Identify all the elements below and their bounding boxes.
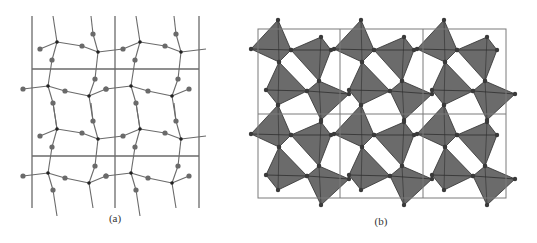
- bond-line: [181, 49, 206, 52]
- oxygen-vertex-dot: [264, 88, 268, 92]
- oxygen-vertex-dot: [319, 120, 323, 124]
- bond-line: [65, 178, 89, 183]
- bond-line: [48, 86, 53, 103]
- framework-node-dot: [96, 137, 100, 141]
- bond-line: [172, 183, 176, 208]
- framework-node-dot: [55, 127, 59, 131]
- framework-node-dot: [129, 171, 133, 175]
- bridging-atom-dot: [79, 43, 84, 48]
- bond-line: [131, 173, 136, 190]
- framework-node-dot: [138, 40, 142, 44]
- oxygen-vertex-dot: [359, 18, 363, 22]
- bridging-atom-dot: [103, 86, 108, 91]
- tetrahedron: [473, 166, 515, 205]
- bond-line: [135, 129, 140, 147]
- tetrahedron: [432, 147, 473, 190]
- bond-line: [23, 86, 48, 89]
- bond-line: [53, 103, 57, 129]
- tetrahedron: [266, 62, 307, 105]
- bond-line: [95, 52, 98, 79]
- bridging-atom-dot: [133, 187, 138, 192]
- oxygen-vertex-dot: [442, 188, 446, 192]
- bridging-atom-dot: [175, 76, 180, 81]
- bridging-atom-dot: [62, 175, 67, 180]
- tetrahedron: [432, 62, 473, 105]
- framework-node-dot: [87, 181, 91, 185]
- bond-line: [48, 173, 53, 190]
- bridging-atom-dot: [132, 57, 137, 62]
- oxygen-vertex-dot: [360, 60, 364, 64]
- tetrahedron: [349, 147, 390, 190]
- bridging-atom-dot: [37, 46, 42, 51]
- bond-line: [23, 173, 48, 176]
- bond-line: [123, 129, 140, 136]
- bond-line: [140, 129, 165, 133]
- oxygen-vertex-dot: [471, 89, 475, 93]
- framework-node-dot: [138, 127, 142, 131]
- bridging-atom-dot: [103, 173, 108, 178]
- oxygen-vertex-dot: [495, 133, 499, 137]
- tetrahedron: [390, 166, 432, 205]
- oxygen-vertex-dot: [455, 133, 459, 137]
- bond-line: [148, 178, 172, 183]
- oxygen-vertex-dot: [347, 88, 351, 92]
- oxygen-vertex-dot: [455, 48, 459, 52]
- oxygen-vertex-dot: [402, 203, 406, 207]
- bond-line: [131, 147, 135, 173]
- oxygen-vertex-dot: [471, 174, 475, 178]
- framework-node-dot: [170, 181, 174, 185]
- oxygen-vertex-dot: [400, 164, 404, 168]
- bond-line: [91, 16, 93, 34]
- tetrahedron: [374, 37, 414, 81]
- bond-line: [136, 103, 140, 129]
- oxygen-vertex-dot: [277, 60, 281, 64]
- oxygen-vertex-dot: [305, 174, 309, 178]
- bridging-atom-dot: [145, 88, 150, 93]
- oxygen-vertex-dot: [359, 103, 363, 107]
- panel-a-caption: (a): [109, 212, 121, 224]
- framework-node-dot: [87, 94, 91, 98]
- tetrahedron: [251, 20, 291, 62]
- bond-line: [65, 91, 89, 96]
- oxygen-vertex-dot: [443, 60, 447, 64]
- bridging-atom-dot: [186, 173, 191, 178]
- oxygen-vertex-dot: [276, 18, 280, 22]
- oxygen-vertex-dot: [485, 35, 489, 39]
- tetrahedron: [457, 37, 497, 81]
- bond-line: [135, 42, 140, 60]
- oxygen-vertex-dot: [483, 79, 487, 83]
- oxygen-vertex-dot: [513, 92, 517, 96]
- oxygen-vertex-dot: [319, 203, 323, 207]
- bond-line: [48, 60, 52, 86]
- oxygen-vertex-dot: [495, 48, 499, 52]
- oxygen-vertex-dot: [276, 188, 280, 192]
- oxygen-vertex-dot: [359, 188, 363, 192]
- bridging-atom-dot: [132, 144, 137, 149]
- bridging-atom-dot: [37, 133, 42, 138]
- framework-node-dot: [129, 84, 133, 88]
- bond-line: [106, 86, 131, 89]
- oxygen-vertex-dot: [249, 132, 253, 136]
- bridging-atom-dot: [90, 31, 95, 36]
- bond-line: [176, 121, 181, 139]
- framework-node-dot: [179, 50, 183, 54]
- bond-line: [48, 86, 65, 91]
- bond-line: [57, 129, 82, 133]
- bond-line: [93, 34, 98, 52]
- bond-line: [136, 16, 140, 42]
- bridging-atom-dot: [20, 86, 25, 91]
- panel-b-polyhedral-diagram: [249, 18, 517, 207]
- bond-line: [148, 91, 172, 96]
- bridging-atom-dot: [120, 133, 125, 138]
- bridging-atom-dot: [50, 187, 55, 192]
- bridging-atom-dot: [49, 57, 54, 62]
- framework-node-dot: [55, 40, 59, 44]
- bond-line: [123, 42, 140, 49]
- oxygen-vertex-dot: [317, 164, 321, 168]
- bond-line: [95, 139, 98, 166]
- bond-line: [98, 49, 123, 52]
- bond-line: [106, 173, 131, 176]
- bond-line: [131, 173, 148, 178]
- bridging-atom-dot: [173, 118, 178, 123]
- bridging-atom-dot: [162, 130, 167, 135]
